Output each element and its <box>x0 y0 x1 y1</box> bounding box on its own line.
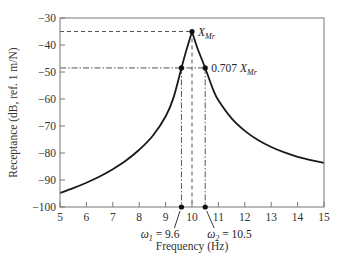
x-tick-label: 7 <box>110 211 116 223</box>
x-axis-ticks: 56789101112131415 <box>57 202 330 223</box>
y-tick-label: −30 <box>38 12 56 24</box>
curve-left-branch <box>60 32 192 193</box>
x-tick-label: 6 <box>84 211 90 223</box>
data-markers <box>179 29 208 210</box>
half-power-point-2 <box>203 65 208 70</box>
y-tick-label: −90 <box>38 174 56 186</box>
x-tick-label: 8 <box>136 211 142 223</box>
x-tick-label: 15 <box>318 211 330 223</box>
x-tick-label: 5 <box>57 211 63 223</box>
y-tick-label: −100 <box>32 201 56 213</box>
x-tick-label: 12 <box>239 211 251 223</box>
y-tick-label: −40 <box>38 39 56 51</box>
x-axis-label: Frequency (Hz) <box>156 240 229 253</box>
omega2-axis-marker <box>203 204 208 209</box>
y-tick-label: −50 <box>38 66 56 78</box>
y-tick-label: −70 <box>38 120 56 132</box>
half-power-label: 0.707 XMr <box>211 62 257 77</box>
y-axis-label: Receptance (dB, ref. 1 m/N) <box>7 47 20 177</box>
x-tick-label: 13 <box>265 211 277 223</box>
half-power-point-1 <box>179 65 184 70</box>
y-tick-label: −80 <box>38 147 56 159</box>
omega1-axis-marker <box>179 204 184 209</box>
x-tick-label: 14 <box>292 211 304 223</box>
omega1-leader <box>174 211 180 228</box>
x-tick-label: 10 <box>186 211 198 223</box>
peak-marker <box>189 29 194 34</box>
peak-label: XMr <box>197 26 216 41</box>
x-tick-label: 11 <box>213 211 224 223</box>
y-tick-label: −60 <box>38 93 56 105</box>
curve-right-branch <box>192 32 324 163</box>
x-tick-label: 9 <box>163 211 169 223</box>
receptance-chart: 56789101112131415 −30−40−50−60−70−80−90−… <box>0 0 342 264</box>
